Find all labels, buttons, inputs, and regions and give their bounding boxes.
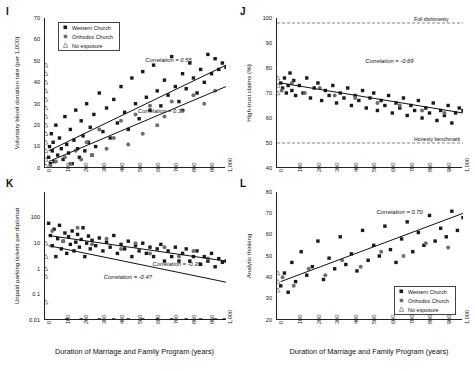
x-tick-label: 900: [209, 163, 215, 172]
y-tick-label: 100: [18, 214, 40, 220]
data-point: [389, 248, 392, 251]
data-point: [69, 128, 72, 131]
data-point: [56, 237, 59, 240]
x-tick-label: 0: [46, 169, 52, 172]
y-tick-label: 20: [250, 317, 272, 323]
x-tick-label: 0: [278, 169, 284, 172]
data-point: [47, 156, 50, 159]
data-point: [51, 141, 54, 144]
data-point: [78, 245, 81, 248]
data-point: [98, 236, 101, 239]
data-point: [45, 274, 48, 278]
data-point: [199, 318, 202, 320]
data-point: [327, 256, 330, 259]
y-tick-label: 10: [18, 143, 40, 149]
data-point: [280, 89, 284, 93]
y-tick-label: 50: [250, 140, 272, 146]
y-tick-label: 80: [250, 189, 272, 195]
data-point: [342, 96, 345, 99]
data-point: [339, 235, 342, 238]
x-tick-label: 300: [101, 315, 107, 324]
trend-line: [49, 235, 226, 261]
legend-label: No exposure: [72, 43, 103, 49]
data-point: [446, 245, 450, 249]
y-tick-label: 10: [18, 240, 40, 246]
data-point: [45, 63, 48, 67]
data-point: [145, 252, 148, 255]
data-point: [76, 226, 80, 230]
y-tick-label: 60: [250, 231, 272, 237]
data-point: [184, 318, 187, 320]
x-tick-label: 1,000: [464, 158, 470, 172]
data-point: [283, 271, 286, 274]
legend-item: No exposure: [395, 305, 455, 314]
x-tick-label: 700: [173, 315, 179, 324]
data-point: [58, 224, 61, 227]
y-tick-label: 40: [250, 165, 272, 171]
x-tick-label: 200: [316, 315, 322, 324]
data-point: [433, 239, 436, 242]
data-point: [85, 140, 89, 144]
data-point: [309, 96, 312, 99]
data-point: [152, 63, 155, 66]
data-point: [311, 265, 314, 268]
data-point: [45, 241, 48, 245]
data-point: [442, 111, 446, 115]
data-point: [456, 229, 459, 232]
data-point: [45, 80, 48, 84]
data-point: [108, 136, 111, 139]
y-axis-title-k: Unpaid parking tickets per diplomat: [13, 192, 20, 320]
x-tick-label: 200: [83, 163, 89, 172]
y-axis-title-i: Voluntary blood donation rate (per 1,000…: [13, 18, 20, 168]
data-point: [63, 155, 67, 159]
data-point: [54, 255, 57, 258]
data-point: [359, 265, 363, 269]
y-tick-label: 0.1: [18, 291, 40, 297]
x-tick-label: 600: [155, 315, 161, 324]
x-tick-label: 100: [65, 163, 71, 172]
data-point: [134, 102, 137, 105]
x-tick-label: 700: [409, 315, 415, 324]
data-point: [126, 142, 130, 146]
data-point: [45, 164, 48, 168]
data-point: [163, 78, 166, 81]
panel-letter-j: J: [240, 6, 246, 17]
panel-letter-i: I: [6, 6, 9, 17]
data-point: [355, 269, 358, 272]
data-point: [375, 101, 379, 105]
data-point: [365, 106, 368, 109]
data-point: [45, 149, 48, 153]
data-point: [85, 102, 88, 105]
y-tick-label: 50: [250, 253, 272, 259]
data-point: [184, 87, 187, 90]
x-axis-title-k: Duration of Marriage and Family Program …: [44, 347, 225, 356]
x-tick-label: 500: [137, 163, 143, 172]
data-point: [90, 153, 94, 157]
y-axis-title-j: High-trust claims (%): [245, 18, 252, 168]
plot-area-k: [44, 192, 225, 320]
data-point: [303, 91, 307, 95]
x-tick-label: 600: [390, 315, 396, 324]
data-point: [50, 132, 53, 135]
data-point: [145, 96, 148, 99]
data-point: [112, 318, 115, 320]
data-point: [45, 72, 48, 76]
legend-item: Orthodox Church: [395, 296, 455, 305]
data-point: [98, 91, 101, 94]
data-point: [152, 255, 155, 258]
data-point: [74, 240, 77, 243]
data-point: [156, 89, 159, 92]
x-tick-label: 0: [46, 321, 52, 324]
data-point: [45, 97, 48, 101]
x-tick-label: 300: [334, 163, 340, 172]
data-point: [277, 288, 280, 292]
data-point: [177, 255, 181, 259]
data-point: [331, 84, 334, 87]
data-point: [45, 254, 48, 258]
data-point: [402, 96, 405, 99]
legend-label: Orthodox Church: [72, 34, 113, 40]
data-point: [192, 76, 195, 79]
reference-line-label: Honesty benchmark: [414, 136, 460, 142]
data-point: [191, 249, 195, 253]
data-point: [47, 222, 50, 225]
